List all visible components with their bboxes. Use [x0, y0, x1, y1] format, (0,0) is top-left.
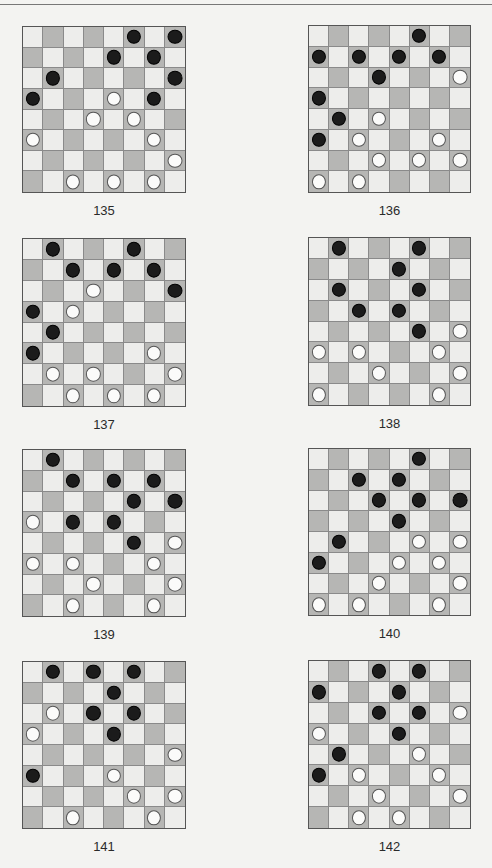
dark-square	[84, 110, 104, 131]
light-square	[390, 449, 410, 470]
light-square	[64, 450, 84, 471]
light-square	[104, 68, 124, 89]
dark-square	[390, 301, 410, 322]
dark-square	[369, 26, 389, 47]
light-square	[430, 151, 450, 172]
dark-square	[64, 683, 84, 704]
light-square	[124, 385, 144, 406]
light-square	[104, 281, 124, 302]
light-square	[369, 342, 389, 363]
dark-square	[309, 765, 329, 786]
light-square	[165, 471, 185, 492]
white-checker-icon	[26, 727, 40, 742]
light-square	[410, 130, 430, 151]
white-checker-icon	[86, 367, 100, 382]
dark-square	[369, 449, 389, 470]
white-checker-icon	[167, 577, 182, 592]
dark-square	[43, 364, 63, 385]
light-square	[450, 594, 470, 615]
dark-square	[430, 384, 450, 405]
dark-square	[64, 48, 84, 69]
light-square	[145, 323, 165, 344]
light-square	[43, 766, 63, 787]
light-square	[64, 68, 84, 89]
dark-square	[124, 575, 144, 596]
white-checker-icon	[412, 535, 426, 550]
light-square	[410, 594, 430, 615]
light-square	[329, 130, 349, 151]
light-square	[64, 281, 84, 302]
dark-square	[450, 322, 470, 343]
light-square	[309, 574, 329, 595]
light-square	[369, 88, 389, 109]
dark-square	[23, 302, 43, 323]
black-checker-icon	[127, 242, 141, 257]
dark-square	[390, 470, 410, 491]
dark-square	[23, 554, 43, 575]
light-square	[349, 745, 369, 766]
light-square	[43, 471, 63, 492]
black-checker-icon	[167, 494, 182, 509]
black-checker-icon	[392, 684, 406, 699]
light-square	[43, 385, 63, 406]
light-square	[450, 682, 470, 703]
dark-square	[145, 471, 165, 492]
dark-square	[309, 682, 329, 703]
dark-square	[43, 239, 63, 260]
dark-square	[450, 449, 470, 470]
dark-square	[145, 512, 165, 533]
light-square	[165, 766, 185, 787]
dark-square	[369, 238, 389, 259]
light-square	[64, 110, 84, 131]
dark-square	[23, 807, 43, 828]
white-checker-icon	[147, 556, 161, 571]
black-checker-icon	[412, 705, 426, 720]
black-checker-icon	[107, 727, 121, 742]
puzzle-number: 142	[308, 839, 471, 854]
light-square	[43, 171, 63, 192]
white-checker-icon	[127, 789, 141, 804]
light-square	[390, 280, 410, 301]
light-square	[390, 661, 410, 682]
dark-square	[450, 532, 470, 553]
dark-square	[23, 260, 43, 281]
black-checker-icon	[26, 768, 40, 783]
dark-square	[84, 533, 104, 554]
dark-square	[329, 322, 349, 343]
light-square	[64, 239, 84, 260]
black-checker-icon	[332, 241, 346, 256]
light-square	[43, 724, 63, 745]
dark-square	[450, 661, 470, 682]
light-square	[369, 130, 389, 151]
dark-square	[390, 384, 410, 405]
light-square	[410, 259, 430, 280]
black-checker-icon	[392, 303, 406, 318]
white-checker-icon	[392, 555, 406, 570]
dark-square	[329, 532, 349, 553]
light-square	[43, 89, 63, 110]
white-checker-icon	[392, 810, 406, 825]
dark-square	[23, 171, 43, 192]
light-square	[124, 302, 144, 323]
dark-square	[165, 450, 185, 471]
checkers-board	[22, 661, 186, 829]
black-checker-icon	[372, 493, 386, 508]
light-square	[430, 280, 450, 301]
dark-square	[124, 239, 144, 260]
dark-square	[64, 724, 84, 745]
dark-square	[64, 595, 84, 616]
light-square	[369, 301, 389, 322]
light-square	[349, 491, 369, 512]
light-square	[329, 301, 349, 322]
light-square	[165, 260, 185, 281]
dark-square	[309, 88, 329, 109]
dark-square	[124, 110, 144, 131]
light-square	[329, 724, 349, 745]
dark-square	[64, 302, 84, 323]
dark-square	[329, 786, 349, 807]
black-checker-icon	[107, 685, 121, 700]
light-square	[329, 342, 349, 363]
black-checker-icon	[412, 493, 426, 508]
light-square	[329, 511, 349, 532]
dark-square	[145, 48, 165, 69]
